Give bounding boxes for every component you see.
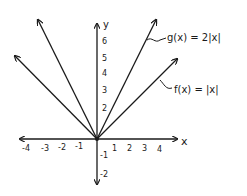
f-right-branch xyxy=(97,59,177,139)
y-tick-label: 5 xyxy=(102,54,107,63)
x-tick-label: -3 xyxy=(41,144,49,153)
y-tick-label: -2 xyxy=(100,170,108,179)
y-tick-label: 6 xyxy=(102,37,107,46)
origin-point xyxy=(95,137,99,141)
x-tick-label: -1 xyxy=(75,142,83,151)
x-axis-label: x xyxy=(181,135,188,148)
x-tick-label: 4 xyxy=(157,145,162,154)
y-tick-labels: 6 5 4 3 2 -1 -2 xyxy=(100,37,108,179)
f-label-leader xyxy=(160,80,172,88)
g-function-label: g(x) = 2|x| xyxy=(167,32,221,44)
g-left-branch xyxy=(38,20,97,139)
f-left-branch xyxy=(15,56,97,139)
x-tick-label: 2 xyxy=(127,144,132,153)
x-tick-label: -4 xyxy=(22,144,30,153)
y-tick-label: 3 xyxy=(102,86,107,95)
y-tick-label: -1 xyxy=(100,151,108,160)
y-axis-label: y xyxy=(103,19,109,30)
x-tick-labels: -4 -3 -2 -1 1 2 3 4 xyxy=(22,142,162,154)
x-tick-label: 1 xyxy=(112,144,117,153)
x-tick-label: 3 xyxy=(142,144,147,153)
f-function-label: f(x) = |x| xyxy=(174,84,219,96)
y-tick-label: 4 xyxy=(102,69,107,78)
g-label-leader xyxy=(147,38,166,41)
y-tick-label: 2 xyxy=(102,104,107,113)
x-tick-label: -2 xyxy=(58,143,66,152)
absolute-value-graph: x y -4 -3 -2 -1 1 2 3 4 6 5 4 3 2 -1 -2 … xyxy=(0,0,247,196)
